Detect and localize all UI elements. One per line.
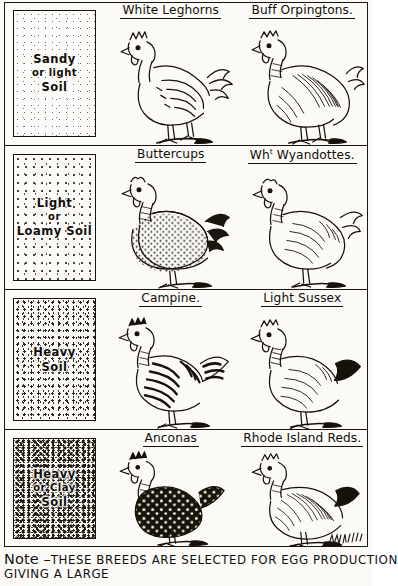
note-caps: THESE BREEDS ARE SELECTED FOR EGG PRODUC… — [51, 553, 398, 567]
soil-label-line2: or light — [32, 67, 77, 80]
breed-cell-white-wyandottes: Wht Wyandottes. — [237, 146, 369, 289]
chicken-illustration-white-wyandotte — [237, 162, 369, 289]
soil-cell-loamy: Light or Loamy Soil — [4, 146, 105, 290]
soil-label-line3: Loamy Soil — [17, 224, 93, 239]
note-lead: Note — [4, 551, 39, 567]
chicken-illustration-white-leghorn — [105, 18, 237, 145]
breed-label-campine: Campine. — [105, 291, 237, 307]
soil-label-line1: Light — [17, 196, 93, 211]
soil-swatch-heavy: Heavy Soil — [13, 298, 96, 421]
breed-label-text: Buff Orpingtons. — [249, 3, 355, 19]
breed-label-buff-orpingtons: Buff Orpingtons. — [237, 3, 369, 19]
breed-label-rhode-island-reds: Rhode Island Reds. — [237, 431, 369, 447]
breed-label-text: Light Sussex — [261, 291, 343, 307]
soil-swatch-loamy: Light or Loamy Soil — [13, 154, 96, 281]
chicken-illustration-campine — [105, 306, 237, 429]
soil-label-clay: Heavy or Clay Soil — [33, 467, 76, 509]
soil-label-line2: or — [17, 211, 93, 224]
soil-cell-sandy: Sandy or light Soil — [4, 2, 105, 146]
breed-illustration-grid: White Leghorns — [105, 2, 368, 547]
note-line-1: Note –THESE BREEDS ARE SELECTED FOR EGG … — [4, 550, 372, 568]
breed-label-part1: Wh — [250, 148, 270, 162]
breed-label-text: Buttercups — [135, 147, 206, 163]
soil-swatch-clay: Heavy or Clay Soil — [13, 438, 96, 539]
breed-label-text: Campine. — [139, 291, 202, 307]
artist-signature — [326, 528, 366, 548]
breed-cell-campine: Campine. — [105, 290, 237, 429]
note-dash: – — [39, 551, 51, 567]
breed-cell-buttercups: Buttercups — [105, 146, 237, 289]
breed-label-buttercups: Buttercups — [105, 147, 237, 163]
chicken-illustration-ancona — [105, 446, 237, 547]
breed-cell-buff-orpingtons: Buff Orpingtons. — [237, 2, 369, 145]
soil-label-sandy: Sandy or light Soil — [32, 52, 77, 94]
soil-label-line2: or Clay — [33, 482, 76, 495]
breed-cell-white-leghorns: White Leghorns — [105, 2, 237, 145]
breed-label-white-leghorns: White Leghorns — [105, 3, 237, 19]
breed-label-light-sussex: Light Sussex — [237, 291, 369, 307]
breed-label-text: White Leghorns — [120, 3, 221, 19]
breed-label-white-wyandottes: Wht Wyandottes. — [237, 147, 369, 164]
soil-swatch-sandy: Sandy or light Soil — [13, 10, 96, 137]
breed-row-sandy: White Leghorns — [105, 2, 368, 146]
chicken-illustration-buff-orpington — [237, 18, 369, 145]
breed-cell-anconas: Anconas — [105, 430, 237, 547]
breed-label-text: Rhode Island Reds. — [241, 431, 363, 447]
breed-cell-light-sussex: Light Sussex — [237, 290, 369, 429]
soil-label-line3: Soil — [33, 495, 76, 510]
soil-label-line1: Sandy — [32, 52, 77, 67]
breed-label-part2: Wyandottes. — [273, 148, 355, 162]
soil-label-line1: Heavy — [33, 467, 76, 482]
soil-cell-heavy: Heavy Soil — [4, 290, 105, 430]
chicken-illustration-buttercup — [105, 162, 237, 289]
soil-label-line3: Soil — [32, 80, 77, 95]
soil-cell-clay: Heavy or Clay Soil — [4, 430, 105, 547]
breed-label-anconas: Anconas — [105, 431, 237, 447]
chart-note: Note –THESE BREEDS ARE SELECTED FOR EGG … — [4, 550, 372, 581]
breed-row-heavy: Campine. — [105, 290, 368, 430]
soil-label-heavy: Heavy Soil — [33, 345, 76, 374]
breed-label-text: Anconas — [143, 431, 199, 447]
breed-label-text: Wht Wyandottes. — [248, 147, 357, 164]
soil-label-line1: Heavy — [33, 345, 76, 360]
soil-label-line3: Soil — [33, 360, 76, 375]
soil-type-column: Sandy or light Soil Light or Loamy Soil — [4, 2, 105, 547]
chicken-illustration-light-sussex — [237, 306, 369, 429]
soil-label-loamy: Light or Loamy Soil — [17, 196, 93, 238]
breed-row-loamy: Buttercups — [105, 146, 368, 290]
note-line-2: GIVING A LARGE — [4, 568, 372, 581]
